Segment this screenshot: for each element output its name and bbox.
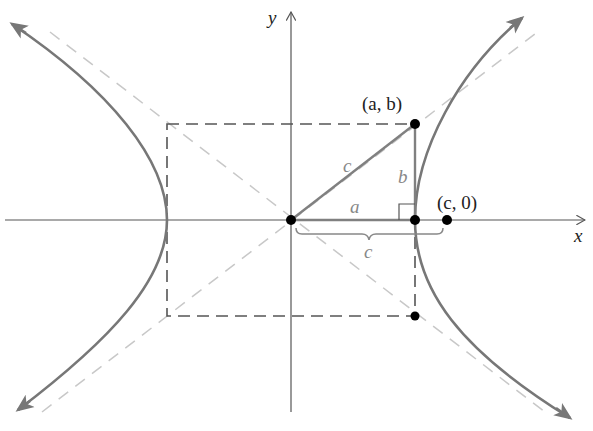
point-label-ab: (a, b): [362, 93, 402, 115]
hyperbola-right-arrow-down: [556, 408, 570, 418]
hyperbola-diagram: y x (a, b) (c, 0) c a b c: [0, 0, 593, 431]
point-label-ab-text: (a, b): [362, 93, 402, 115]
point-label-focus: (c, 0): [437, 192, 477, 214]
label-leg-b: b: [398, 166, 408, 187]
vertex-point: [410, 215, 420, 225]
label-hypotenuse-c: c: [343, 155, 352, 176]
x-axis-label: x: [573, 225, 583, 246]
origin-point: [286, 215, 296, 225]
label-brace-c: c: [364, 241, 373, 262]
hyperbola-right-arrow-up: [510, 18, 522, 28]
focus-point: [442, 215, 452, 225]
hyperbola-left-arrow-down: [18, 401, 30, 410]
corner-point-lower: [411, 312, 420, 321]
hyperbola-left-arrow-up: [12, 24, 26, 33]
asymptote-negative-slope: [50, 32, 545, 412]
point-label-focus-text: (c, 0): [437, 192, 477, 214]
hyperbola-left-branch: [12, 24, 167, 410]
hyperbola-right-branch: [415, 18, 570, 418]
corner-point-ab: [410, 119, 420, 129]
y-axis-label: y: [266, 7, 277, 28]
label-leg-a: a: [350, 196, 360, 217]
